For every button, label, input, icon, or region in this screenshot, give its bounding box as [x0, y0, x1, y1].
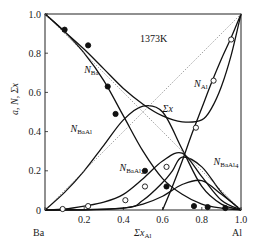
chart: 00.20.40.60.81.0 0.20.40.60.81.0 NBaNBaA… [0, 0, 259, 247]
marker-n-ba [62, 27, 67, 32]
marker-n-al [211, 78, 216, 83]
y-tick-label: 0.4 [29, 126, 42, 137]
curve-label: NBaAl4 [213, 156, 239, 171]
marker-n-baal2 [60, 206, 65, 211]
curve-label: NBaAl2 [118, 162, 144, 177]
y-tick-label: 0.6 [29, 87, 42, 98]
marker-n-ba [113, 111, 118, 116]
marker-n-ba [191, 203, 196, 208]
curve-n-baal [45, 105, 241, 210]
marker-n-ba [164, 184, 169, 189]
x-axis-label: ΣxAl [133, 227, 151, 240]
marker-n-baal2 [123, 198, 128, 203]
x-right-label: Al [232, 227, 242, 238]
marker-n-baal2 [164, 164, 169, 169]
marker-n-al [229, 37, 234, 42]
x-left-label: Ba [33, 227, 45, 238]
y-tick-label: 0.8 [29, 48, 42, 59]
x-tick-label: 0.8 [196, 214, 209, 225]
marker-n-baal2 [142, 184, 147, 189]
curve-label: NAl [193, 78, 208, 91]
curve-label: Σx [162, 103, 174, 114]
marker-n-ba [223, 205, 228, 210]
marker-n-baal2 [86, 203, 91, 208]
x-tick-label: 1.0 [235, 214, 248, 225]
curve-n-baal4-2- [45, 157, 241, 210]
x-tick-label: 0.4 [117, 214, 130, 225]
x-tick-label: 0.6 [156, 214, 169, 225]
curve-label: NBaAl [69, 123, 92, 136]
y-axis-label: a, N, Σx [9, 82, 20, 115]
marker-n-ba [86, 43, 91, 48]
temperature-annotation: 1373K [140, 33, 168, 44]
marker-n-al [193, 125, 198, 130]
x-tick-label: 0.2 [78, 214, 91, 225]
y-tick-label: 1.0 [29, 9, 42, 20]
marker-n-ba [205, 204, 210, 209]
y-tick-label: 0.2 [29, 165, 42, 176]
y-tick-label: 0 [36, 205, 41, 216]
marker-n-ba [105, 84, 110, 89]
